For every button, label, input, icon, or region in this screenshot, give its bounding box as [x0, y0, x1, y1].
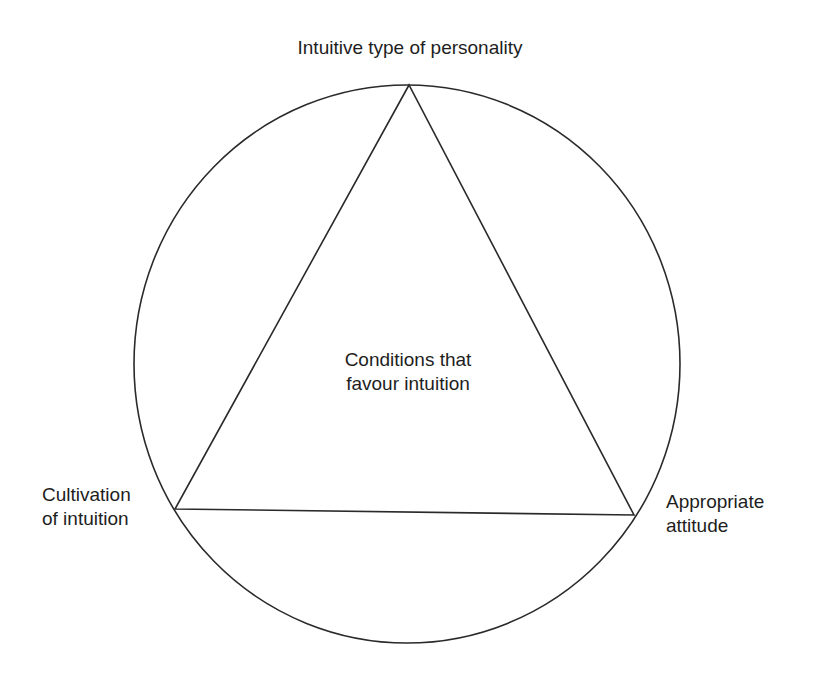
vertex-label-top: Intuitive type of personality — [0, 36, 816, 60]
vertex-label-top-line1: Intuitive type of personality — [4, 36, 816, 60]
vertex-label-left: Cultivation of intuition — [42, 483, 131, 531]
diagram-canvas — [0, 0, 816, 674]
vertex-label-right-line1: Appropriate — [666, 490, 764, 514]
vertex-label-right: Appropriate attitude — [666, 490, 764, 538]
vertex-label-right-line2: attitude — [666, 514, 764, 538]
center-label: Conditions that favour intuition — [308, 348, 508, 396]
vertex-label-left-line1: Cultivation — [42, 483, 131, 507]
inner-triangle — [175, 85, 634, 515]
vertex-label-left-line2: of intuition — [42, 507, 131, 531]
center-label-line2: favour intuition — [308, 372, 508, 396]
center-label-line1: Conditions that — [308, 348, 508, 372]
